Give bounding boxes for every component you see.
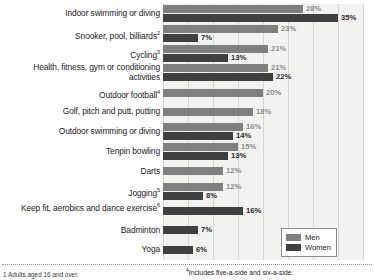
category-label: Indoor swimming or diving xyxy=(0,9,160,19)
bar-value-label: 28% xyxy=(306,4,321,13)
category-label: Golf, pitch and putt, putting xyxy=(0,107,160,117)
chart-row: Cycling321%13% xyxy=(0,43,374,63)
footnote-divider xyxy=(2,264,372,265)
chart-row: Keep fit, aerobics and dance exercise616… xyxy=(0,201,374,221)
category-label: Yoga xyxy=(0,245,160,255)
category-label-text: Yoga xyxy=(142,244,160,254)
chart-row: Outdoor football420% xyxy=(0,83,374,103)
category-label-text: Indoor swimming or diving xyxy=(65,8,160,18)
bar-value-label: 12% xyxy=(226,182,241,191)
bar-men xyxy=(163,45,268,53)
category-label-text: Badminton xyxy=(121,225,160,235)
grouped-bar-chart: Indoor swimming or diving28%35%Snooker, … xyxy=(0,0,374,280)
bar-men xyxy=(163,167,223,175)
chart-row: Indoor swimming or diving28%35% xyxy=(0,4,374,24)
category-label: Jogging5 xyxy=(0,186,160,198)
bar-value-label: 13% xyxy=(231,151,246,160)
bar-value-label: 18% xyxy=(256,107,271,116)
legend-item-men: Men xyxy=(286,233,331,242)
category-label: Keep fit, aerobics and dance exercise6 xyxy=(0,201,160,213)
bar-women xyxy=(163,192,203,200)
footnote-right-text: Includes five-a-side and six-a-side. xyxy=(189,269,294,276)
bar-men xyxy=(163,25,278,33)
category-label-text: Outdoor football xyxy=(99,90,157,100)
bar-men xyxy=(163,123,243,131)
category-label-text: Golf, pitch and putt, putting xyxy=(63,106,160,116)
category-label-text: Darts xyxy=(140,166,160,176)
bar-men xyxy=(163,183,223,191)
bar-value-label: 15% xyxy=(241,142,256,151)
chart-row: Outdoor swimming or diving16%14% xyxy=(0,122,374,142)
chart-legend: Men Women xyxy=(281,228,337,257)
category-label: Health, fitness, gym or conditioning act… xyxy=(0,63,160,82)
category-label: Snooker, pool, billiards2 xyxy=(0,29,160,41)
chart-rows: Indoor swimming or diving28%35%Snooker, … xyxy=(0,4,374,260)
bar-women xyxy=(163,54,228,62)
category-label-text: Jogging xyxy=(128,188,157,198)
bar-value-label: 23% xyxy=(281,24,296,33)
bar-women xyxy=(163,14,338,22)
category-label-text: Outdoor swimming or diving xyxy=(59,126,160,136)
category-footnote-mark: 4 xyxy=(157,89,160,95)
chart-row: Snooker, pool, billiards223%7% xyxy=(0,24,374,44)
category-footnote-mark: 5 xyxy=(157,187,160,193)
chart-row: Darts12% xyxy=(0,162,374,182)
legend-label-women: Women xyxy=(305,244,331,252)
bar-women xyxy=(163,226,198,234)
bar-women xyxy=(163,132,233,140)
bar-women xyxy=(163,152,228,160)
category-label: Darts xyxy=(0,167,160,177)
chart-row: Golf, pitch and putt, putting18% xyxy=(0,102,374,122)
bar-value-label: 22% xyxy=(276,72,291,81)
bar-value-label: 6% xyxy=(196,245,207,254)
bar-women xyxy=(163,73,273,81)
bar-men xyxy=(163,108,253,116)
legend-swatch-women-icon xyxy=(286,244,301,251)
bar-value-label: 20% xyxy=(266,88,281,97)
bar-value-label: 16% xyxy=(246,206,261,215)
footnote-left: 1 Adults aged 16 and over. xyxy=(3,271,79,279)
bar-men xyxy=(163,143,238,151)
bar-value-label: 35% xyxy=(341,13,356,22)
category-label-text: Keep fit, aerobics and dance exercise xyxy=(21,203,157,213)
chart-row: Jogging512%8% xyxy=(0,181,374,201)
category-label: Outdoor swimming or diving xyxy=(0,127,160,137)
bar-women xyxy=(163,34,198,42)
footnote-right: 4Includes five-a-side and six-a-side. xyxy=(186,266,293,277)
category-footnote-mark: 3 xyxy=(157,49,160,55)
category-label-text: Health, fitness, gym or conditioning act… xyxy=(33,62,160,82)
bar-men xyxy=(163,64,268,72)
bar-value-label: 14% xyxy=(236,131,251,140)
category-label: Outdoor football4 xyxy=(0,88,160,100)
category-footnote-mark: 2 xyxy=(157,30,160,36)
category-footnote-mark: 6 xyxy=(157,202,160,208)
bar-value-label: 21% xyxy=(271,63,286,72)
category-label: Badminton xyxy=(0,226,160,236)
legend-item-women: Women xyxy=(286,243,331,252)
bar-value-label: 7% xyxy=(201,225,212,234)
legend-swatch-men-icon xyxy=(286,234,301,241)
chart-row: Tenpin bowling15%13% xyxy=(0,142,374,162)
bar-value-label: 7% xyxy=(201,33,212,42)
bar-value-label: 13% xyxy=(231,53,246,62)
bar-men xyxy=(163,89,263,97)
category-label-text: Snooker, pool, billiards xyxy=(75,31,157,41)
bar-value-label: 21% xyxy=(271,44,286,53)
category-label: Tenpin bowling xyxy=(0,147,160,157)
category-label: Cycling3 xyxy=(0,48,160,60)
category-label-text: Cycling xyxy=(130,50,157,60)
bar-men xyxy=(163,5,303,13)
category-label-text: Tenpin bowling xyxy=(106,146,160,156)
legend-label-men: Men xyxy=(305,234,320,242)
bar-value-label: 16% xyxy=(246,122,261,131)
chart-row: Health, fitness, gym or conditioning act… xyxy=(0,63,374,83)
bar-women xyxy=(163,207,243,215)
bar-women xyxy=(163,246,193,254)
bar-value-label: 12% xyxy=(226,166,241,175)
bar-value-label: 8% xyxy=(206,191,217,200)
